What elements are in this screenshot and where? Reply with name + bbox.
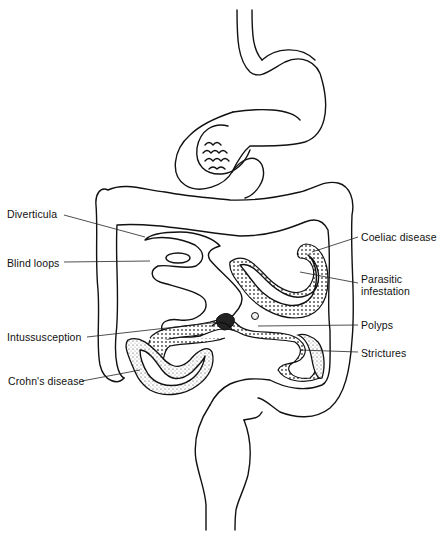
label-intussusception: Intussusception <box>7 331 81 343</box>
label-infestation: infestation <box>361 285 410 297</box>
label-strictures: Strictures <box>361 347 406 359</box>
stomach <box>175 10 325 189</box>
label-diverticula: Diverticula <box>7 208 57 220</box>
label-crohns-disease: Crohn's disease <box>8 375 84 387</box>
food-bolus <box>203 143 229 170</box>
label-parasitic: Parasitic <box>361 273 402 285</box>
gi-tract-diagram <box>0 0 443 536</box>
label-blind-loops: Blind loops <box>7 257 59 269</box>
coeliac-loop <box>230 244 328 318</box>
polyp <box>252 313 259 320</box>
label-polyps: Polyps <box>361 319 393 331</box>
crohns-loop <box>126 339 213 395</box>
label-coeliac-disease: Coeliac disease <box>361 231 437 243</box>
